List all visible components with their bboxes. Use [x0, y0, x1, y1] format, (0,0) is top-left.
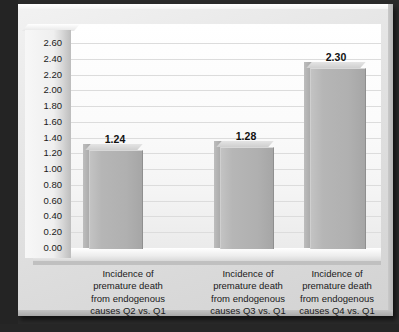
- y-tick-label: 2.00: [26, 85, 62, 95]
- y-tick-label: 1.20: [26, 148, 62, 158]
- y-axis-wall: [25, 30, 71, 258]
- category-label-3-line-3: from endogenous: [277, 293, 397, 305]
- category-label-3-line-4: causes Q4 vs. Q1: [277, 305, 397, 317]
- category-label-1-line-4: causes Q2 vs. Q1: [68, 305, 188, 317]
- y-tick-label: 0.80: [26, 180, 62, 190]
- gridline: [71, 43, 381, 44]
- y-tick-label: 2.20: [26, 70, 62, 80]
- bar-2: [220, 147, 274, 249]
- category-label-3-line-2: premature death: [277, 280, 397, 292]
- bar-1-value-label: 1.24: [85, 133, 145, 145]
- plot-floor: [33, 248, 381, 262]
- category-label-3-line-1: Incidence of: [277, 268, 397, 280]
- bar-3-value-label: 2.30: [306, 51, 366, 63]
- category-label-3: Incidence of premature death from endoge…: [277, 268, 397, 318]
- plot-floor-front: [33, 261, 381, 265]
- y-tick-label: 1.40: [26, 133, 62, 143]
- y-tick-label: 0.40: [26, 211, 62, 221]
- y-tick-label: 1.00: [26, 164, 62, 174]
- card-top-bevel: [17, 4, 393, 9]
- y-tick-label: 0.60: [26, 196, 62, 206]
- y-tick-label: 2.40: [26, 54, 62, 64]
- category-label-1-line-3: from endogenous: [68, 293, 188, 305]
- category-label-1-line-1: Incidence of: [68, 268, 188, 280]
- bar-3: [310, 68, 366, 249]
- category-label-1-line-2: premature death: [68, 280, 188, 292]
- category-label-1: Incidence of premature death from endoge…: [68, 268, 188, 318]
- bar-2-value-label: 1.28: [216, 130, 276, 142]
- y-tick-label: 0.00: [26, 243, 62, 253]
- y-tick-label: 1.60: [26, 117, 62, 127]
- y-tick-label: 1.80: [26, 101, 62, 111]
- cutoff-bottom-strip: [0, 324, 399, 332]
- y-tick-label: 0.20: [26, 227, 62, 237]
- bar-1: [89, 150, 143, 249]
- bar-chart-image: 1.24 1.28 2.30 2.60 2.40 2.20 2.00 1.80 …: [0, 0, 399, 332]
- y-tick-label: 2.60: [26, 38, 62, 48]
- y-axis-title-strip: [0, 0, 18, 332]
